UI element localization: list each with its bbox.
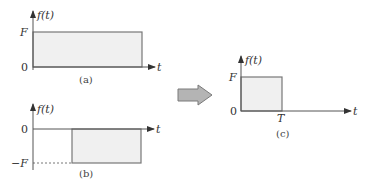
right-arrow-icon: [178, 85, 212, 105]
caption-b: (b): [79, 168, 93, 179]
panel-b: f(t) t −F 0 (b): [11, 103, 161, 179]
zero-label-b: 0: [21, 123, 28, 136]
zero-label-c: 0: [230, 105, 237, 118]
panel-c: f(t) t F 0 T (c): [228, 54, 358, 139]
x-axis-label-a: t: [157, 61, 162, 74]
x-axis-label-b: t: [156, 123, 161, 136]
level-label-b: −F: [11, 157, 28, 170]
caption-a: (a): [79, 74, 93, 85]
y-axis-label-a: f(t): [36, 9, 54, 22]
zero-label-a: 0: [21, 61, 28, 74]
time-label-c: T: [277, 112, 286, 125]
pulse-b-region: [72, 129, 141, 163]
level-label-a: F: [19, 26, 28, 39]
pulse-c-region: [241, 77, 282, 111]
pulse-a-region: [33, 32, 142, 67]
panel-a: f(t) t F 0 (a): [19, 9, 162, 85]
level-label-c: F: [228, 71, 237, 84]
x-axis-label-c: t: [353, 105, 358, 118]
y-axis-label-c: f(t): [244, 54, 262, 67]
caption-c: (c): [276, 128, 290, 139]
signal-decomposition-diagram: f(t) t F 0 (a) f(t) t −F 0 (b) f(t) t F …: [0, 0, 373, 191]
y-axis-label-b: f(t): [36, 103, 54, 116]
